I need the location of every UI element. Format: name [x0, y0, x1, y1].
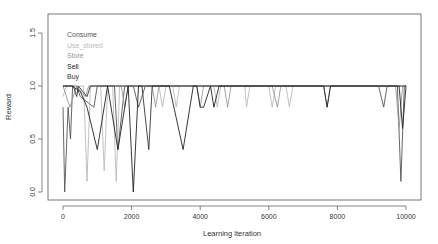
legend: ConsumeUse_storedStoreSellBuy — [67, 31, 103, 81]
reward-line-chart: 0200040006000800010000 0.00.51.01.5 Lear… — [0, 0, 438, 244]
x-tick-label: 10000 — [396, 213, 416, 220]
y-tick-label: 0.5 — [29, 134, 36, 144]
y-tick-label: 1.0 — [29, 81, 36, 91]
y-axis-label: Reward — [4, 94, 13, 120]
legend-item-sell: Sell — [67, 63, 79, 70]
x-axis-label: Learning iteration — [203, 229, 261, 238]
chart-canvas: 0200040006000800010000 0.00.51.01.5 Lear… — [0, 0, 438, 244]
legend-item-consume: Consume — [67, 31, 97, 38]
x-axis: 0200040006000800010000 — [61, 206, 416, 220]
x-tick-label: 0 — [61, 213, 65, 220]
x-tick-label: 2000 — [124, 213, 140, 220]
y-tick-label: 1.5 — [29, 28, 36, 38]
x-tick-label: 6000 — [261, 213, 277, 220]
series-line-use-stored — [63, 86, 406, 181]
legend-item-use-stored: Use_stored — [67, 42, 103, 50]
y-axis: 0.00.51.01.5 — [29, 28, 42, 197]
y-tick-label: 0.0 — [29, 187, 36, 197]
legend-item-store: Store — [67, 52, 84, 59]
series-lines — [63, 86, 406, 192]
x-tick-label: 8000 — [330, 213, 346, 220]
legend-item-buy: Buy — [67, 73, 80, 81]
x-tick-label: 4000 — [192, 213, 208, 220]
